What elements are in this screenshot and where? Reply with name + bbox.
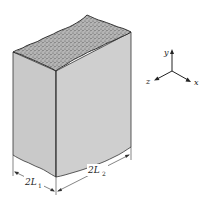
dimension-label-2L2: 2L	[87, 165, 100, 175]
block-diagram: 2L 1 2L 2 y x z	[0, 0, 212, 201]
coordinate-axes: y x z	[145, 48, 199, 87]
z-axis-label: z	[145, 77, 151, 86]
dimension-sub-2: 2	[102, 170, 106, 177]
x-axis-arrow-icon	[186, 78, 192, 83]
y-axis-arrow-icon	[170, 49, 174, 54]
y-axis-label: y	[163, 48, 169, 57]
dimension-sub-1: 1	[38, 182, 42, 189]
x-axis-label: x	[194, 78, 199, 87]
block-left-face	[13, 52, 56, 177]
dimension-label-2L1: 2L	[24, 177, 37, 187]
